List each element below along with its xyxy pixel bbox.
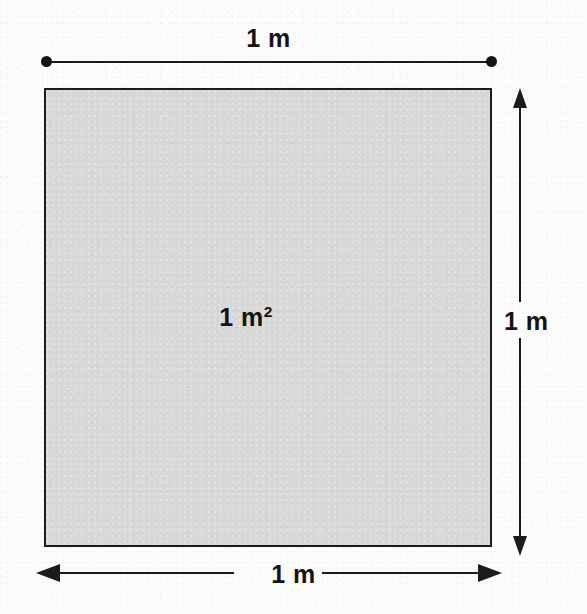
top-dimension-left-dot-icon bbox=[41, 56, 52, 67]
bottom-dimension-shaft-right bbox=[311, 572, 486, 574]
area-label-value: 1 m bbox=[219, 303, 264, 331]
right-dimension-label: 1 m bbox=[500, 305, 553, 338]
arrow-right-icon bbox=[478, 564, 502, 582]
arrow-down-icon bbox=[513, 536, 527, 556]
top-dimension-line bbox=[46, 61, 491, 63]
area-label: 1 m2 bbox=[0, 303, 492, 332]
right-dimension-shaft-top bbox=[519, 102, 521, 302]
right-dimension-shaft-bottom bbox=[519, 336, 521, 542]
area-label-exponent: 2 bbox=[264, 303, 273, 320]
diagram-canvas: 1 m 1 m2 1 m 1 m bbox=[0, 0, 587, 614]
bottom-dimension-shaft-left bbox=[54, 572, 234, 574]
top-dimension-right-dot-icon bbox=[486, 56, 497, 67]
bottom-dimension-arrow bbox=[36, 564, 502, 582]
top-dimension-label: 1 m bbox=[46, 24, 491, 53]
